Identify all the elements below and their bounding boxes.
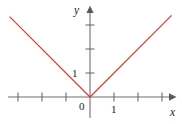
origin-label: 0 <box>79 100 85 112</box>
y-unit-tick-label: 1 <box>72 67 78 79</box>
x-axis-label: x <box>169 106 176 118</box>
graph-figure: y x 1 1 0 <box>0 0 182 124</box>
x-unit-tick-label: 1 <box>111 103 117 115</box>
y-axis-label: y <box>73 4 80 17</box>
labels-layer: y x 1 1 0 <box>0 0 182 124</box>
